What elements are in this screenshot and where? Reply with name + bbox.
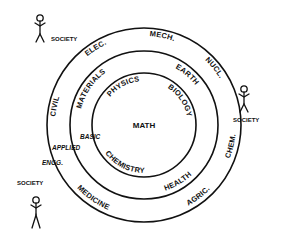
center-label-math: MATH: [133, 121, 156, 130]
label-agric: AGRIC.: [185, 184, 212, 207]
person-icon-right: [239, 86, 249, 112]
society-label-top-left: SOCIETY: [51, 36, 77, 42]
level-label-engg: ENGG.: [42, 159, 63, 166]
concentric-disciplines-diagram: MATH PHYSICS BIOLOGY CHEMISTRY MATERIALS…: [0, 0, 283, 242]
level-label-applied: APPLIED: [51, 144, 80, 151]
person-icon-top-left: [35, 15, 45, 42]
level-label-basic: BASIC: [80, 133, 101, 140]
society-label-right: SOCIETY: [233, 117, 259, 123]
label-mech: MECH.: [149, 29, 176, 43]
label-chemistry: CHEMISTRY: [104, 149, 145, 175]
person-icon-bottom-left: [31, 197, 41, 228]
label-health: HEALTH: [163, 170, 193, 193]
society-label-bottom-left: SOCIETY: [17, 180, 43, 186]
